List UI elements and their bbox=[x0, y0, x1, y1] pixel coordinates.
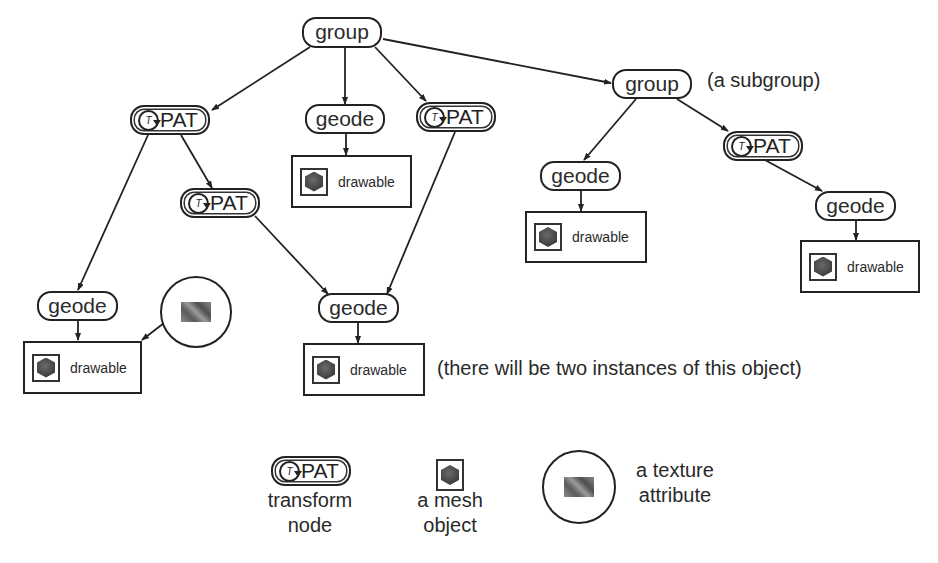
legend-mesh-caption: a mesh object bbox=[400, 488, 500, 538]
subgroup-geode-node[interactable]: geode bbox=[540, 161, 621, 191]
legend-transform-caption: transform node bbox=[255, 488, 365, 538]
edge-pat-mid-to-shared-geode bbox=[255, 216, 328, 294]
transform-rotate-icon: T bbox=[138, 110, 159, 131]
edge-root-to-subgroup bbox=[383, 39, 611, 83]
subgroup-pat-node[interactable]: T PAT bbox=[723, 131, 803, 161]
texture-attribute-node[interactable] bbox=[160, 276, 232, 348]
legend-mesh-icon bbox=[436, 459, 464, 491]
node-label: drawable bbox=[350, 362, 407, 378]
node-label: geode bbox=[329, 297, 387, 320]
root-group-node[interactable]: group bbox=[302, 17, 382, 48]
node-label: geode bbox=[551, 165, 609, 188]
mesh-icon bbox=[32, 354, 60, 382]
pat-center-right-node[interactable]: T PAT bbox=[416, 102, 496, 132]
node-label: drawable bbox=[70, 360, 127, 376]
legend-texture-caption: a texture attribute bbox=[625, 458, 725, 508]
node-label: drawable bbox=[847, 259, 904, 275]
legend-texture-circle bbox=[542, 450, 616, 524]
node-label: PAT bbox=[753, 135, 791, 157]
transform-rotate-icon: T bbox=[424, 107, 445, 128]
instances-annotation: (there will be two instances of this obj… bbox=[437, 357, 802, 380]
node-label: geode bbox=[316, 108, 374, 131]
node-label: drawable bbox=[572, 229, 629, 245]
node-label: geode bbox=[826, 195, 884, 218]
texture-icon bbox=[181, 302, 211, 322]
texture-icon bbox=[564, 477, 594, 497]
mesh-icon bbox=[312, 356, 340, 384]
shared-drawable-node[interactable]: drawable bbox=[303, 343, 425, 396]
shared-geode-node[interactable]: geode bbox=[318, 293, 399, 323]
node-label: PAT bbox=[210, 192, 248, 214]
legend-transform-label: PAT bbox=[301, 460, 339, 482]
edge-pat-left-to-geode-left bbox=[78, 135, 148, 290]
edge-texture-to-drawable bbox=[142, 323, 164, 340]
subgroup-node[interactable]: group bbox=[612, 69, 692, 99]
node-label: drawable bbox=[338, 174, 395, 190]
mesh-icon bbox=[300, 168, 328, 196]
edge-root-to-pat-left bbox=[212, 47, 310, 110]
subgroup-drawable-node[interactable]: drawable bbox=[525, 211, 647, 263]
geode-left-node[interactable]: geode bbox=[37, 291, 118, 321]
scene-graph-diagram: group T PAT geode drawable T PAT T PAT g… bbox=[0, 0, 938, 563]
pat-mid-node[interactable]: T PAT bbox=[180, 188, 260, 218]
pat-left-node[interactable]: T PAT bbox=[130, 105, 210, 135]
node-label: PAT bbox=[446, 106, 484, 128]
drawable-center-node[interactable]: drawable bbox=[291, 155, 412, 208]
legend-transform-node: T PAT bbox=[271, 456, 351, 486]
node-label: PAT bbox=[160, 109, 198, 131]
drawable-left-node[interactable]: drawable bbox=[23, 341, 142, 394]
edge-subgroup-to-pat bbox=[677, 99, 728, 131]
node-label: group bbox=[625, 73, 679, 96]
edge-root-to-pat-center-right bbox=[375, 47, 426, 101]
subgroup-pat-drawable-node[interactable]: drawable bbox=[800, 240, 920, 293]
edge-pat-left-to-pat-mid bbox=[181, 135, 212, 188]
geode-center-node[interactable]: geode bbox=[305, 104, 385, 134]
node-label: group bbox=[315, 21, 369, 44]
node-label: geode bbox=[48, 295, 106, 318]
edge-subgroup-to-geode bbox=[584, 99, 636, 160]
transform-rotate-icon: T bbox=[279, 461, 300, 482]
mesh-icon bbox=[809, 253, 837, 281]
mesh-icon bbox=[534, 223, 562, 251]
subgroup-annotation: (a subgroup) bbox=[707, 69, 820, 92]
transform-rotate-icon: T bbox=[731, 136, 752, 157]
edge-subgroup-pat-to-geode bbox=[765, 160, 822, 191]
transform-rotate-icon: T bbox=[188, 193, 209, 214]
subgroup-pat-geode-node[interactable]: geode bbox=[815, 191, 896, 221]
